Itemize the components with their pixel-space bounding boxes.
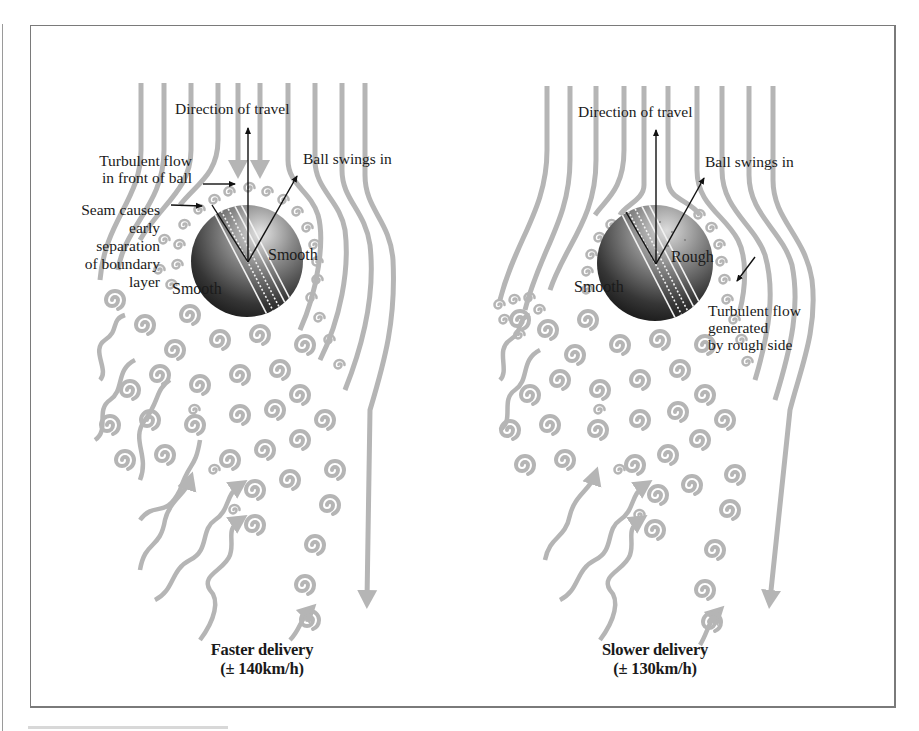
turbulent-front-line-1: Turbulent flow bbox=[70, 152, 192, 169]
direction-of-travel-label-left: Direction of travel bbox=[175, 100, 289, 117]
seam-annotation-label: Seam causes early separation of boundary… bbox=[50, 201, 160, 291]
turbulent-rough-line-2: generated bbox=[708, 319, 801, 336]
seam-pointer bbox=[171, 205, 202, 206]
turbulent-rough-line-3: by rough side bbox=[708, 336, 801, 353]
turbulent-stream bbox=[140, 480, 190, 570]
swing-bowling-diagram bbox=[0, 0, 919, 731]
turbulent-stream bbox=[155, 485, 240, 600]
seam-line-2: early bbox=[50, 219, 160, 237]
ball-swings-in-label-left: Ball swings in bbox=[303, 150, 392, 167]
smooth-label-right-side: Smooth bbox=[268, 246, 318, 264]
caption-slower-delivery: Slower delivery (± 130km/h) bbox=[555, 640, 755, 678]
seam-line-3: separation bbox=[50, 237, 160, 255]
turbulent-stream bbox=[545, 475, 595, 560]
ball-swings-in-label-right: Ball swings in bbox=[705, 153, 794, 170]
turbulent-front-line-2: in front of ball bbox=[70, 169, 192, 186]
caption-title: Slower delivery bbox=[555, 640, 755, 659]
smooth-label-right-panel: Smooth bbox=[574, 278, 624, 296]
caption-speed: (± 130km/h) bbox=[555, 659, 755, 678]
seam-line-5: layer bbox=[50, 273, 160, 291]
rough-label: Rough bbox=[671, 248, 714, 266]
caption-speed: (± 140km/h) bbox=[162, 659, 362, 678]
turbulent-rough-label: Turbulent flow generated by rough side bbox=[708, 302, 801, 353]
turbulent-stream bbox=[99, 315, 125, 380]
turbulent-stream bbox=[600, 520, 640, 640]
seam-line-4: of boundary bbox=[50, 255, 160, 273]
caption-title: Faster delivery bbox=[162, 640, 362, 659]
turbulent-rough-line-1: Turbulent flow bbox=[708, 302, 801, 319]
smooth-label-left-side: Smooth bbox=[172, 280, 222, 298]
seam-line-1: Seam causes bbox=[50, 201, 160, 219]
turbulent-front-label: Turbulent flow in front of ball bbox=[70, 152, 192, 186]
turbulent-stream bbox=[500, 350, 540, 430]
direction-of-travel-label-right: Direction of travel bbox=[578, 103, 692, 120]
caption-faster-delivery: Faster delivery (± 140km/h) bbox=[162, 640, 362, 678]
